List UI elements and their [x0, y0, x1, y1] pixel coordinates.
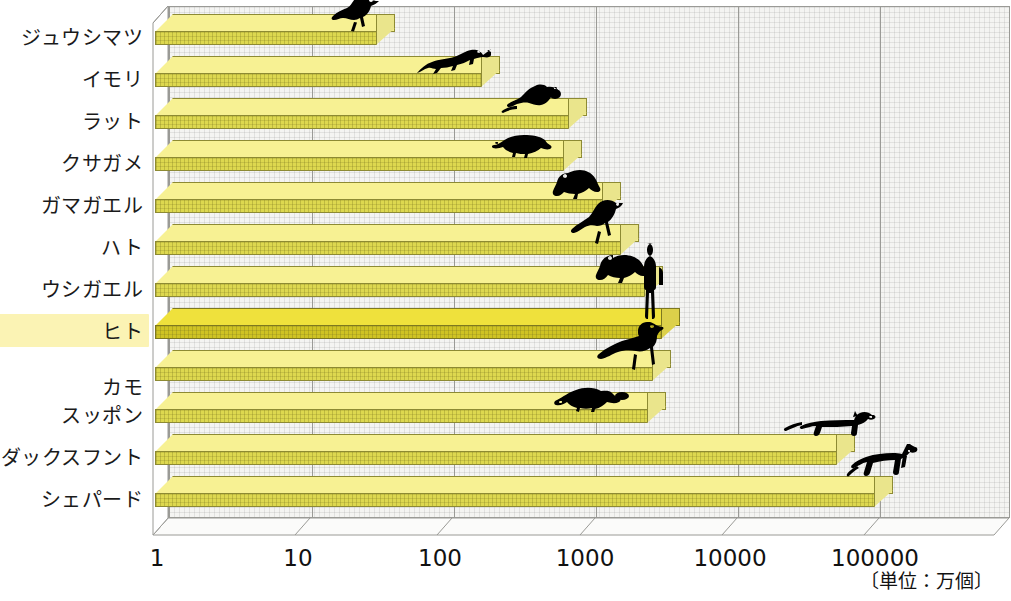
bar-top-face: [155, 14, 395, 32]
bar-row: イモリ: [0, 56, 1011, 96]
category-label-human: ヒト: [0, 314, 149, 347]
bar-row: カモ: [0, 350, 1011, 390]
bar-front-face: [155, 409, 648, 423]
bar-front-face: [155, 493, 875, 507]
category-label-softshell-turtle: スッポン: [0, 400, 143, 429]
bar-top-face: [155, 308, 680, 326]
bar-top-face: [155, 350, 671, 368]
bar-pigeon[interactable]: [155, 224, 639, 264]
bar-top-face: [155, 266, 663, 284]
bar-front-face: [155, 367, 653, 381]
bar-human[interactable]: [155, 308, 680, 348]
bar-dachshund[interactable]: [155, 434, 855, 474]
bar-row: ヒト: [0, 308, 1011, 348]
bar-front-face: [155, 325, 662, 339]
category-label-toad: ガマガエル: [0, 190, 143, 219]
category-label-rat: ラット: [0, 106, 143, 135]
bar-end-cap: [652, 350, 671, 381]
bar-newt[interactable]: [155, 56, 500, 96]
unit-annotation: 〔単位：万個〕: [860, 566, 993, 593]
bar-top-face: [155, 224, 639, 242]
category-label-newt: イモリ: [0, 64, 143, 93]
bar-row: シェパード: [0, 476, 1011, 516]
bar-top-face: [155, 140, 582, 158]
x-tick-label-10: 10: [283, 545, 312, 571]
category-label-bullfrog: ウシガエル: [0, 274, 143, 303]
bar-front-face: [155, 115, 569, 129]
bar-top-face: [155, 434, 855, 452]
bar-end-cap: [836, 434, 855, 465]
bar-front-face: [155, 157, 564, 171]
bar-front-face: [155, 451, 837, 465]
bar-front-face: [155, 31, 377, 45]
bar-end-cap: [874, 476, 893, 507]
chart-root: ジュウシマツ イモリ ラット: [0, 0, 1011, 601]
bar-softshell-turtle[interactable]: [155, 392, 666, 432]
category-label-shepherd: シェパード: [0, 484, 143, 513]
x-tick-label-100: 100: [418, 545, 462, 571]
bar-end-cap: [661, 308, 680, 339]
bar-end-cap: [568, 98, 587, 129]
category-label-turtle: クサガメ: [0, 148, 143, 177]
bar-front-face: [155, 283, 645, 297]
bar-top-face: [155, 98, 587, 116]
bar-row: ラット: [0, 98, 1011, 138]
bar-row: クサガメ: [0, 140, 1011, 180]
category-label-finch: ジュウシマツ: [0, 22, 143, 51]
category-label-dachshund: ダックスフント: [0, 442, 143, 471]
bar-rat[interactable]: [155, 98, 587, 138]
bar-end-cap: [620, 224, 639, 255]
bar-front-face: [155, 241, 621, 255]
x-tick-label-10000: 10000: [693, 545, 766, 571]
bar-bullfrog[interactable]: [155, 266, 663, 306]
x-tick-label-1000: 1000: [556, 545, 615, 571]
bar-top-face: [155, 56, 500, 74]
bar-row: スッポン: [0, 392, 1011, 432]
bar-top-face: [155, 392, 666, 410]
bar-turtle[interactable]: [155, 140, 582, 180]
bar-end-cap: [481, 56, 500, 87]
bar-top-face: [155, 476, 893, 494]
bar-row: ダックスフント: [0, 434, 1011, 474]
bar-row: ウシガエル: [0, 266, 1011, 306]
bar-shepherd[interactable]: [155, 476, 893, 516]
bar-row: ハト: [0, 224, 1011, 264]
bar-rows: ジュウシマツ イモリ ラット: [0, 0, 1011, 601]
bar-end-cap: [602, 182, 621, 213]
bar-toad[interactable]: [155, 182, 621, 222]
bar-top-face: [155, 182, 621, 200]
bar-end-cap: [563, 140, 582, 171]
bar-front-face: [155, 73, 482, 87]
bar-end-cap: [647, 392, 666, 423]
bar-row: ガマガエル: [0, 182, 1011, 222]
bar-duck[interactable]: [155, 350, 671, 390]
bar-end-cap: [376, 14, 395, 45]
category-label-pigeon: ハト: [0, 232, 143, 261]
x-tick-label-1: 1: [150, 545, 165, 571]
bar-finch[interactable]: [155, 14, 395, 54]
bar-row: ジュウシマツ: [0, 14, 1011, 54]
bar-end-cap: [644, 266, 663, 297]
bar-front-face: [155, 199, 603, 213]
